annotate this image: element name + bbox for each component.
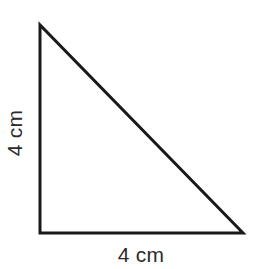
triangle-shape <box>0 0 261 269</box>
triangle-diagram: 4 cm 4 cm <box>0 0 261 269</box>
base-dimension-label: 4 cm <box>118 244 164 265</box>
height-dimension-label: 4 cm <box>4 110 25 156</box>
right-triangle-polygon <box>40 25 243 233</box>
